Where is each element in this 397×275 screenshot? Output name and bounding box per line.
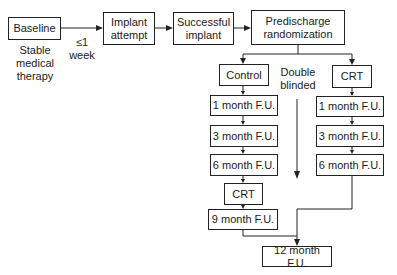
node-control-fu1: 1 month F.U.	[210, 95, 278, 116]
node-implant-attempt: Implant attempt	[103, 12, 155, 45]
node-control-fu9: 9 month F.U.	[208, 209, 278, 230]
node-label: Baseline	[13, 22, 55, 35]
double-blinded-label: Double blinded	[276, 66, 320, 92]
node-crt-fu1: 1 month F.U.	[316, 96, 384, 117]
node-baseline: Baseline	[8, 17, 61, 40]
interval-note: ≤1 week	[64, 36, 100, 62]
flowchart: Baseline Stable medical therapy ≤1 week …	[0, 0, 397, 275]
node-crt: CRT	[332, 65, 372, 88]
node-control-fu6: 6 month F.U.	[210, 154, 278, 176]
arrowhead-icon	[96, 25, 103, 31]
arrowhead-icon	[294, 171, 300, 179]
arrowhead-icon	[244, 25, 251, 31]
arrowhead-icon	[166, 25, 173, 31]
node-fu12: 12 month F.U.	[262, 246, 332, 267]
node-successful-implant: Successful implant	[173, 12, 234, 45]
node-crt-fu3: 3 month F.U.	[316, 125, 384, 147]
node-crt-fu6: 6 month F.U.	[316, 154, 384, 176]
baseline-note: Stable medical therapy	[4, 44, 66, 83]
connector-fu9-to-fu12	[243, 230, 297, 236]
node-predischarge-randomization: Predischarge randomization	[251, 10, 345, 45]
node-control-crt: CRT	[224, 183, 263, 205]
node-control-fu3: 3 month F.U.	[210, 125, 278, 147]
connector-crt-fu6-to-fu12	[297, 176, 352, 240]
node-control: Control	[219, 64, 269, 86]
